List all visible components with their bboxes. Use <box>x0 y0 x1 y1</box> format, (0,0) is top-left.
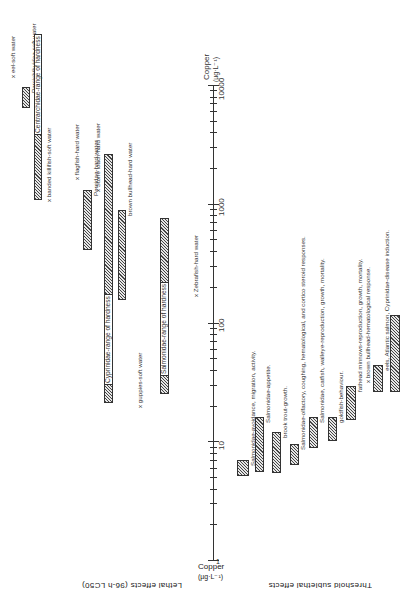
axis-tick <box>210 385 217 386</box>
range-bar <box>22 87 30 108</box>
range-label: Salmonidae-olfactory, coughing, hematolo… <box>300 236 306 450</box>
copper-toxicity-chart: 10000 1000 100 10 Copper (µg·L⁻¹) Copper… <box>0 0 400 613</box>
axis-unit-top: Copper <box>203 54 211 80</box>
axis-tick <box>210 328 217 329</box>
tick-label-1000: 1000 <box>218 198 226 216</box>
axis-tick <box>210 147 217 148</box>
point-label: x brown bullhead-hematological response. <box>365 267 371 383</box>
axis-tick <box>210 239 217 240</box>
range-label: eels, Atlantic salmon, Cyprinidae-diseas… <box>384 230 390 371</box>
axis-tick <box>210 230 217 231</box>
axis-tick <box>210 406 217 407</box>
axis-tick <box>210 334 217 335</box>
point-label: x guppies-soft water <box>137 352 143 407</box>
range-label: fathead minnows-reproduction, growth, mo… <box>357 259 363 392</box>
axis-tick <box>210 287 217 288</box>
tick-label-10000: 10000 <box>218 78 226 100</box>
range-label: Salmonidae-range of hardness <box>160 282 169 376</box>
axis-tick <box>210 468 217 469</box>
range-label: Centrarchidae-range of hardness <box>34 34 42 135</box>
axis-tick <box>210 168 217 169</box>
axis-tick <box>210 266 217 267</box>
range-bar <box>309 417 318 448</box>
point-label: x eel-soft water <box>10 36 16 78</box>
range-label: Salmonidae, catfish, walleye-reproductio… <box>319 258 325 423</box>
axis-tick <box>210 209 217 210</box>
axis-tick <box>210 349 217 350</box>
point-label: x Stone loach-hard water <box>95 123 101 192</box>
range-bar <box>373 365 383 392</box>
sublethal-section-title: Threshold sublethal effects <box>268 581 372 590</box>
range-bar <box>290 444 299 465</box>
tick-label-1: 1 <box>216 558 220 565</box>
range-bar <box>118 210 126 300</box>
axis-unit-bottom: Copper <box>198 562 224 571</box>
range-bar <box>237 460 249 476</box>
range-label: Salmonidae-appetite. <box>265 365 271 423</box>
axis-tick <box>210 460 217 461</box>
tick-label-100: 100 <box>218 319 226 332</box>
range-label: brown bullhead-hard water <box>127 142 133 215</box>
range-bar <box>390 315 400 392</box>
range-label: Cyprinidae-range of hardness <box>104 294 113 385</box>
point-label: x Zebrafish-hard water <box>193 235 199 297</box>
point-label: x flagfish-hard water <box>74 124 80 180</box>
axis-tick <box>210 132 217 133</box>
axis-tick <box>210 447 217 448</box>
range-bar <box>346 386 356 420</box>
axis-unit-top-2: (µg·L⁻¹) <box>212 57 219 82</box>
axis-tick <box>210 524 217 525</box>
axis-tick <box>210 453 217 454</box>
axis-tick <box>210 477 217 478</box>
axis-tick <box>210 103 217 104</box>
axis-tick <box>210 121 217 122</box>
axis-unit-bottom-2: (µg·L⁻¹) <box>198 573 223 581</box>
range-bar <box>255 417 264 472</box>
range-bar <box>272 432 281 473</box>
axis-tick <box>210 215 217 216</box>
axis-tick <box>210 251 217 252</box>
range-bar <box>328 417 337 441</box>
axis-tick <box>210 370 217 371</box>
axis-tick <box>210 111 217 112</box>
axis-tick <box>210 90 217 91</box>
axis-tick <box>210 358 217 359</box>
range-label: goldfish-behaviour. <box>338 371 344 423</box>
point-label: x banded killifish-soft water <box>46 128 52 202</box>
tick-label-10: 10 <box>218 441 226 450</box>
axis-tick <box>210 503 217 504</box>
lethal-section-title: Lethal effects (96-h LC50) <box>82 581 182 590</box>
axis-tick <box>210 97 217 98</box>
axis-tick <box>210 341 217 342</box>
axis-tick <box>210 222 217 223</box>
range-bar <box>83 190 92 250</box>
axis-tick <box>210 489 217 490</box>
range-label: brook trout-growth. <box>282 386 288 438</box>
